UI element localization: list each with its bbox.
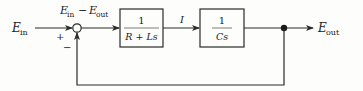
minus-sign: −: [63, 42, 71, 53]
svg-text:out: out: [96, 10, 108, 19]
error-signal-label: E in − E out: [59, 4, 108, 19]
svg-text:R + Ls: R + Ls: [124, 31, 157, 42]
svg-text:in: in: [67, 10, 74, 19]
diagram-canvas: E in + − E in − E out 1 R + Ls I 1 Cs E: [0, 0, 363, 91]
plus-sign: +: [56, 31, 64, 42]
input-label: E in: [11, 21, 28, 37]
svg-text:1: 1: [138, 15, 144, 26]
summing-junction: [73, 24, 81, 32]
block-capacitor: 1 Cs: [200, 9, 244, 47]
block-impedance: 1 R + Ls: [120, 9, 163, 47]
input-subscript: in: [20, 28, 28, 37]
current-label: I: [179, 14, 185, 25]
feedback-path: [77, 28, 284, 85]
svg-text:Cs: Cs: [216, 31, 228, 42]
svg-text:−: −: [78, 4, 87, 17]
output-subscript: out: [326, 28, 340, 37]
svg-text:1: 1: [219, 15, 225, 26]
block-diagram: E in + − E in − E out 1 R + Ls I 1 Cs E: [0, 0, 363, 91]
output-label: E out: [317, 21, 340, 37]
